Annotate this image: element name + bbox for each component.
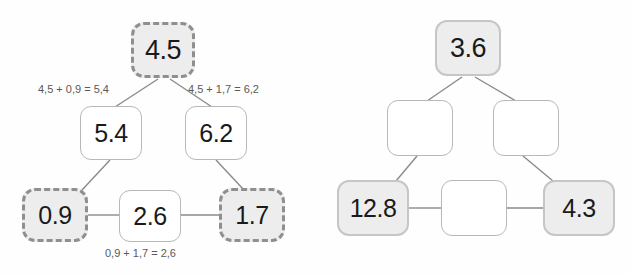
value-box-left-bottom-left[interactable]: 0.9	[22, 188, 88, 242]
empty-value-box-right-mid-left[interactable]	[387, 100, 453, 156]
value-box-right-top[interactable]: 3.6	[435, 20, 501, 76]
equation-annotation: 4,5 + 0,9 = 5,4	[38, 83, 109, 95]
connector-line	[427, 77, 462, 101]
empty-value-box-right-mid-right[interactable]	[493, 100, 559, 156]
value-box-left-mid-left[interactable]: 5.4	[80, 106, 142, 160]
value-box-right-bottom-right[interactable]: 4.3	[543, 180, 615, 236]
value-box-left-mid-right[interactable]: 6.2	[185, 106, 247, 160]
value-box-left-bottom-mid[interactable]: 2.6	[119, 190, 181, 242]
connector-line	[523, 156, 553, 181]
value-box-right-bottom-left[interactable]: 12.8	[337, 180, 409, 236]
connector-line	[115, 79, 158, 107]
connector-line	[216, 160, 244, 190]
value-box-left-bottom-right[interactable]: 1.7	[219, 188, 285, 242]
equation-annotation: 0,9 + 1,7 = 2,6	[105, 247, 176, 259]
number-pyramid-worksheet: 4.55.46.20.92.61.73.612.84.3 4,5 + 0,9 =…	[0, 0, 631, 275]
empty-value-box-right-bottom-mid[interactable]	[441, 180, 507, 236]
connector-line	[475, 77, 516, 101]
equation-annotation: 4,5 + 1,7 = 6,2	[188, 83, 259, 95]
value-box-left-top[interactable]: 4.5	[131, 22, 195, 78]
connector-line	[82, 160, 110, 190]
connector-line	[396, 156, 417, 181]
